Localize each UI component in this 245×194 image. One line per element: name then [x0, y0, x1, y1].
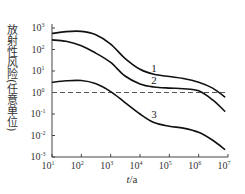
x-tick-label: 105: [159, 160, 172, 171]
curve-label-1: 1: [151, 62, 157, 74]
x-tick-label: 104: [130, 160, 143, 171]
curve-1: [52, 31, 225, 97]
y-tick-label: 10-1: [31, 108, 46, 119]
curve-2: [52, 40, 225, 112]
y-tick-label: 101: [32, 65, 45, 76]
curve-labels: 123: [151, 62, 157, 120]
curves: [52, 31, 225, 150]
curve-label-2: 2: [151, 74, 157, 86]
x-tick-label: 106: [188, 160, 201, 171]
y-tick-label: 10-2: [31, 130, 46, 141]
x-tick-label: 101: [42, 160, 55, 171]
y-tick-label: 102: [32, 44, 45, 55]
x-tick-label: 107: [218, 160, 231, 171]
x-tick-label: 103: [100, 160, 113, 171]
x-tick-label: 102: [71, 160, 84, 171]
x-axis-label: t/a: [126, 173, 137, 185]
y-tick-label: 100: [32, 87, 45, 98]
chart: 10110210310410510610710-310-210-11001011…: [0, 0, 245, 194]
ticks: 10110210310410510610710-310-210-11001011…: [31, 22, 231, 171]
curve-label-3: 3: [151, 108, 157, 120]
y-tick-label: 103: [32, 22, 45, 33]
